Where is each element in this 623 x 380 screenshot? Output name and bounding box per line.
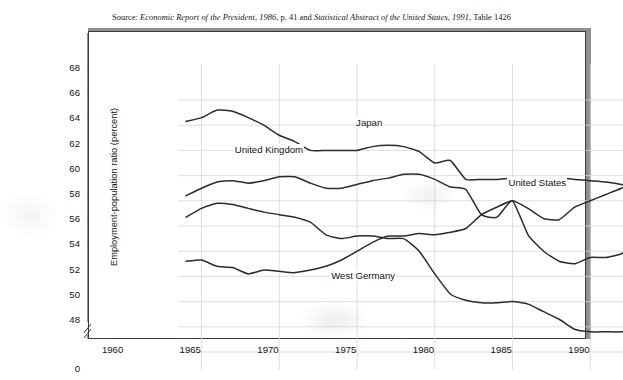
figure-page: Source: Economic Report of the President… bbox=[0, 0, 623, 380]
x-tick-1965: 1965 bbox=[170, 345, 210, 355]
y-tick-58: 58 bbox=[54, 189, 80, 199]
y-tick-50: 50 bbox=[54, 290, 80, 300]
x-tick-1985: 1985 bbox=[481, 345, 521, 355]
source-title-1: Economic Report of the President, 1986 bbox=[140, 13, 276, 22]
series-label-united-kingdom: United Kingdom bbox=[234, 144, 304, 155]
series-line-west-germany bbox=[186, 203, 623, 332]
paper-smudge-3 bbox=[0, 190, 60, 240]
x-tick-1990: 1990 bbox=[559, 345, 599, 355]
y-tick-zero: 0 bbox=[54, 364, 80, 374]
y-tick-68: 68 bbox=[54, 63, 80, 73]
gridlines bbox=[178, 64, 623, 370]
source-prefix: Source: bbox=[112, 13, 140, 22]
series-label-japan: Japan bbox=[355, 117, 383, 128]
source-suffix: , Table 1426 bbox=[469, 13, 511, 22]
x-tick-1975: 1975 bbox=[326, 345, 366, 355]
y-tick-60: 60 bbox=[54, 164, 80, 174]
x-tick-1960: 1960 bbox=[93, 345, 133, 355]
source-title-2: Statistical Abstract of the United State… bbox=[314, 13, 469, 22]
x-tick-1980: 1980 bbox=[404, 345, 444, 355]
y-tick-66: 66 bbox=[54, 88, 80, 98]
y-axis-title: Employment-population ratio (percent) bbox=[109, 57, 119, 317]
series-label-west-germany: West Germany bbox=[330, 270, 396, 281]
x-tick-1970: 1970 bbox=[248, 345, 288, 355]
y-tick-56: 56 bbox=[54, 214, 80, 224]
y-tick-64: 64 bbox=[54, 113, 80, 123]
series-label-united-states: United States bbox=[507, 177, 567, 188]
source-mid: , p. 41 and bbox=[276, 13, 314, 22]
y-tick-48: 48 bbox=[54, 315, 80, 325]
y-tick-54: 54 bbox=[54, 239, 80, 249]
y-tick-62: 62 bbox=[54, 139, 80, 149]
y-tick-52: 52 bbox=[54, 265, 80, 275]
source-citation: Source: Economic Report of the President… bbox=[0, 13, 623, 22]
chart-svg bbox=[178, 64, 623, 370]
plot-area bbox=[178, 64, 623, 370]
